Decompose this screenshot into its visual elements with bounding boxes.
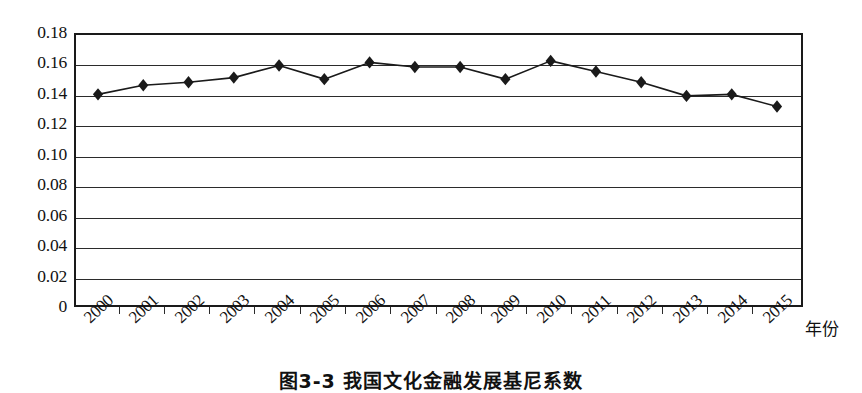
x-axis-tick [209, 307, 210, 314]
gridline [76, 187, 801, 188]
data-point-marker [727, 88, 737, 100]
x-axis-tick [571, 307, 572, 314]
x-axis-tick [300, 307, 301, 314]
gridline [76, 248, 801, 249]
figure-caption: 图3-3 我国文化金融发展基尼系数 [0, 366, 862, 393]
gridline [76, 65, 801, 66]
x-axis-tick [707, 307, 708, 314]
series-line-chart [76, 35, 805, 309]
x-axis-tick [617, 307, 618, 314]
x-axis-tick [345, 307, 346, 314]
x-axis-tick [662, 307, 663, 314]
data-point-marker [229, 71, 239, 83]
y-axis-tick-label: 0.04 [5, 237, 67, 255]
gridline [76, 96, 801, 97]
y-axis-tick-label: 0.18 [5, 24, 67, 42]
x-axis-tick [164, 307, 165, 314]
data-point-marker [636, 76, 646, 88]
y-axis-tick-label: 0.06 [5, 207, 67, 225]
gridline [76, 126, 801, 127]
data-point-marker [138, 79, 148, 91]
data-point-marker [410, 61, 420, 73]
gridline [76, 279, 801, 280]
x-axis-tick [119, 307, 120, 314]
y-axis-tick-label: 0 [5, 298, 67, 316]
y-axis-tick-label: 0.14 [5, 85, 67, 103]
x-axis-tick [254, 307, 255, 314]
y-axis-tick-label: 0.08 [5, 176, 67, 194]
series-markers [93, 55, 782, 113]
y-axis-tick-label: 0.02 [5, 268, 67, 286]
data-point-marker [591, 65, 601, 77]
data-point-marker [500, 73, 510, 85]
x-axis-tick [390, 307, 391, 314]
data-point-marker [455, 61, 465, 73]
x-axis-tick [526, 307, 527, 314]
gridline [76, 157, 801, 158]
x-axis-tick [481, 307, 482, 314]
plot-area [74, 33, 803, 307]
x-axis-tick [752, 307, 753, 314]
y-axis-tick-label: 0.16 [5, 54, 67, 72]
data-point-marker [93, 88, 103, 100]
gridline [76, 218, 801, 219]
data-point-marker [183, 76, 193, 88]
data-point-marker [365, 56, 375, 68]
x-axis-title: 年份 [805, 315, 839, 340]
y-axis-tick-label: 0.10 [5, 146, 67, 164]
x-axis-tick [436, 307, 437, 314]
y-axis-tick-label: 0.12 [5, 115, 67, 133]
series-polyline [98, 61, 777, 107]
data-point-marker [319, 73, 329, 85]
data-point-marker [772, 100, 782, 112]
